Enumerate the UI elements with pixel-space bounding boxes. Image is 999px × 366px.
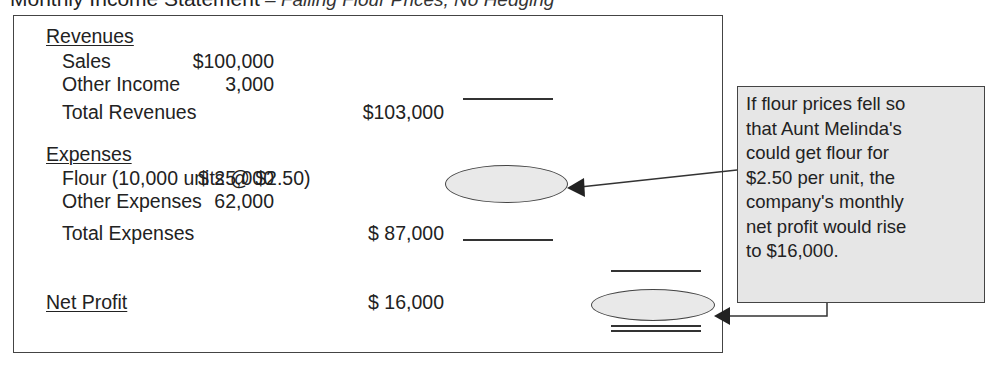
revenues-header: Revenues [46,25,134,47]
sales-label: Sales [62,50,111,72]
title-subtitle: – Falling Flour Prices, No Hedging [260,0,555,10]
flour-amount: $ 25,000 [198,167,274,189]
total-expenses-rule [611,270,701,272]
sales-amount: $100,000 [193,50,274,72]
income-statement-box: Revenues Sales $100,000 Other Income 3,0… [13,15,723,353]
net-profit-highlight-ellipse [591,289,715,321]
callout-line: If flour prices fell so [746,92,978,117]
other-income-label: Other Income [62,73,180,95]
arrow-to-net-profit-icon [714,303,827,325]
net-profit-label: Net Profit [46,291,127,313]
flour-highlight-ellipse [445,165,568,203]
other-income-amount: 3,000 [225,73,274,95]
double-underline-top [611,325,701,327]
callout-line: that Aunt Melinda's [746,117,978,142]
total-expenses-amount: $ 87,000 [368,222,444,244]
total-revenues-label: Total Revenues [62,101,196,123]
page-title: Monthly Income Statement – Falling Flour… [10,0,554,11]
double-underline-bottom [611,330,701,332]
expenses-header: Expenses [46,143,132,165]
explanation-callout: If flour prices fell so that Aunt Melind… [737,86,985,303]
callout-line: $2.50 per unit, the [746,166,978,191]
callout-line: to $16,000. [746,239,978,264]
total-revenues-amount: $103,000 [363,101,444,123]
total-expenses-label: Total Expenses [62,222,194,244]
callout-line: could get flour for [746,141,978,166]
callout-line: net profit would rise [746,215,978,240]
title-main: Monthly Income Statement [10,0,260,10]
subtotal-rule-expenses [463,239,553,241]
subtotal-rule-revenues [463,98,553,100]
other-expenses-label: Other Expenses [62,190,202,212]
other-expenses-amount: 62,000 [214,190,274,212]
callout-line: company's monthly [746,190,978,215]
net-profit-amount: $ 16,000 [368,291,444,313]
